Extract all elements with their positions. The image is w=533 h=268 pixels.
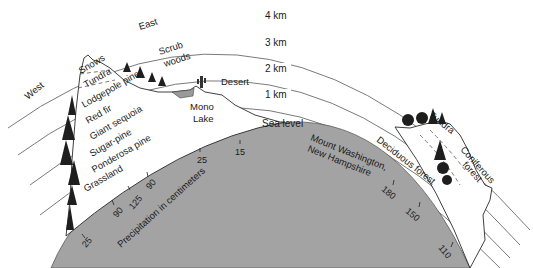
- direction-east: East: [137, 15, 159, 31]
- zone-mono-lake-line2: Lake: [193, 113, 214, 124]
- label-4km: 4 km: [265, 10, 287, 21]
- direction-west: West: [22, 79, 46, 101]
- precip-25-east: 25: [197, 155, 207, 165]
- zone-desert: Desert: [221, 76, 249, 87]
- label-2km: 2 km: [265, 63, 287, 74]
- vegetation-altitude-diagram: 4 km 3 km 2 km 1 km Sea level West East …: [0, 0, 533, 268]
- zone-mono-lake-line1: Mono: [190, 101, 214, 112]
- cactus-icon: [197, 76, 206, 88]
- label-1km: 1 km: [265, 89, 287, 100]
- label-sea-level: Sea level: [262, 118, 303, 129]
- precip-15: 15: [235, 147, 245, 157]
- altitude-labels: 4 km 3 km 2 km 1 km Sea level: [262, 10, 303, 129]
- label-3km: 3 km: [265, 37, 287, 48]
